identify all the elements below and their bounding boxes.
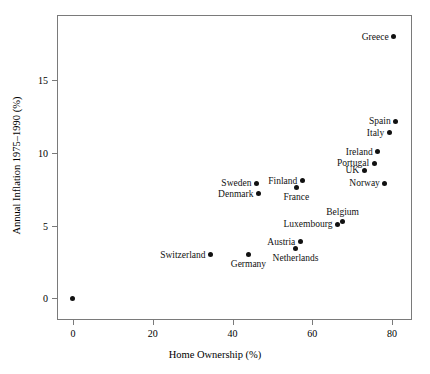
y-axis-tick-label: 15 bbox=[38, 75, 48, 86]
x-axis-tick-label: 20 bbox=[148, 328, 158, 339]
data-point bbox=[375, 149, 380, 154]
x-axis-tick-mark bbox=[233, 320, 234, 325]
data-point bbox=[391, 34, 396, 39]
x-axis-title: Home Ownership (%) bbox=[0, 349, 430, 360]
data-point bbox=[254, 181, 259, 186]
data-point-label: Finland bbox=[268, 176, 297, 186]
data-point bbox=[393, 119, 398, 124]
data-point-label: Netherlands bbox=[273, 253, 319, 263]
data-point bbox=[382, 181, 387, 186]
x-axis-tick-label: 80 bbox=[387, 328, 397, 339]
data-point bbox=[298, 239, 303, 244]
data-point-label: Luxembourg bbox=[284, 219, 333, 229]
data-point-label: Switzerland bbox=[160, 250, 205, 260]
x-axis-tick-mark bbox=[392, 320, 393, 325]
data-point-label: Ireland bbox=[346, 147, 373, 157]
data-point bbox=[372, 161, 377, 166]
x-axis-tick-mark bbox=[153, 320, 154, 325]
data-point bbox=[70, 296, 75, 301]
y-axis-tick-label: 10 bbox=[38, 147, 48, 158]
data-point bbox=[300, 178, 305, 183]
data-point bbox=[256, 191, 261, 196]
data-point bbox=[294, 185, 299, 190]
x-axis-tick-mark bbox=[312, 320, 313, 325]
data-point bbox=[208, 252, 213, 257]
data-point bbox=[387, 130, 392, 135]
data-point bbox=[362, 168, 367, 173]
data-point-label: Austria bbox=[267, 237, 295, 247]
data-point-label: Italy bbox=[367, 128, 384, 138]
scatter-plot-figure: Annual Inflation 1975–1990 (%) Home Owne… bbox=[0, 0, 430, 374]
y-axis-tick-label: 5 bbox=[43, 220, 48, 231]
x-axis-tick-label: 40 bbox=[228, 328, 238, 339]
x-axis-tick-label: 60 bbox=[307, 328, 317, 339]
plot-data-area: GreeceSpainItalyIrelandPortugalUKNorwayF… bbox=[57, 15, 412, 320]
x-axis-tick-mark bbox=[73, 320, 74, 325]
data-point-label: Spain bbox=[369, 116, 391, 126]
data-point-label: Greece bbox=[362, 32, 389, 42]
x-axis-tick-label: 0 bbox=[70, 328, 75, 339]
data-point-label: Norway bbox=[349, 178, 380, 188]
y-axis-title: Annual Inflation 1975–1990 (%) bbox=[11, 66, 22, 266]
data-point-label: Denmark bbox=[218, 189, 253, 199]
data-point-label: Belgium bbox=[326, 207, 359, 217]
data-point bbox=[293, 246, 298, 251]
data-point-label: Germany bbox=[231, 259, 266, 269]
data-point-label: France bbox=[283, 192, 309, 202]
data-point-label: Sweden bbox=[221, 178, 251, 188]
data-point bbox=[246, 252, 251, 257]
data-point bbox=[340, 219, 345, 224]
data-point bbox=[335, 222, 340, 227]
y-axis-tick-label: 0 bbox=[43, 293, 48, 304]
data-point-label: UK bbox=[345, 165, 359, 175]
